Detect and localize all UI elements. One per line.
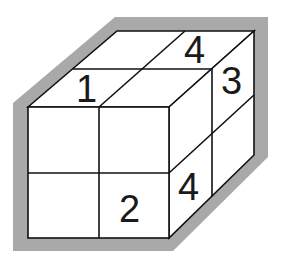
label-top-back-right: 4 <box>184 29 205 71</box>
cube-svg: 1 4 3 4 2 <box>0 0 282 267</box>
label-right-bottom-front: 4 <box>178 166 199 208</box>
label-top-front-left: 1 <box>76 68 97 110</box>
label-front-bottom-right: 2 <box>119 188 140 230</box>
label-right-top-back: 3 <box>221 60 242 102</box>
cube-diagram: 1 4 3 4 2 <box>0 0 282 267</box>
